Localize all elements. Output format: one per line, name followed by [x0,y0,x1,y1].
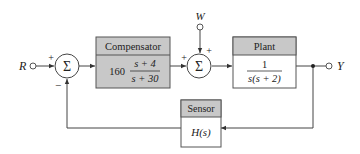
plant-denominator: s(s + 2) [248,73,281,85]
sensor-title: Sensor [187,103,215,114]
sigma-icon: Σ [63,59,71,74]
output-label-y: Y [337,59,345,73]
sensor-transfer: H(s) [190,126,211,139]
compensator-gain: 160 [109,66,125,77]
plant-numerator: 1 [262,59,267,70]
input-label-r: R [18,59,27,73]
plant-block: Plant 1 s(s + 2) [233,37,296,88]
sum1-minus-sign: − [55,79,61,91]
output-terminal-y [326,63,332,69]
plant-title: Plant [254,41,276,52]
disturbance-terminal-w [197,24,203,30]
sensor-block: Sensor H(s) [181,100,221,147]
input-terminal-r [30,63,36,69]
compensator-block: Compensator 160 s + 4 s + 30 [96,37,170,88]
compensator-title: Compensator [105,41,161,52]
block-diagram: R Σ + − Compensator 160 s + 4 s + 30 W Σ… [0,0,360,154]
compensator-numerator: s + 4 [134,58,156,69]
compensator-denominator: s + 30 [132,73,160,84]
sum2-plus-sign-top: + [206,45,212,56]
takeoff-point [311,64,315,68]
sum2-plus-sign-left: + [181,52,187,63]
sigma-icon: Σ [195,59,203,74]
sum1-plus-sign: + [48,52,54,63]
disturbance-label-w: W [195,10,205,22]
